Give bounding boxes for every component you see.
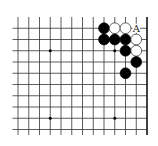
- star-point: [113, 117, 116, 120]
- white-stone: [131, 34, 142, 45]
- black-stone: [120, 45, 131, 56]
- black-stone: [131, 57, 142, 68]
- white-stone: [109, 23, 120, 34]
- black-stone: [99, 34, 110, 45]
- white-stone: [120, 23, 131, 34]
- go-board-diagram: A: [0, 0, 158, 146]
- star-point: [49, 117, 52, 120]
- star-point: [113, 49, 116, 52]
- black-stone: [109, 34, 120, 45]
- point-labels: A: [132, 23, 141, 34]
- white-stone: [131, 45, 142, 56]
- point-label-a: A: [132, 23, 141, 34]
- black-stone: [120, 34, 131, 45]
- star-point: [49, 49, 52, 52]
- black-stone: [120, 68, 131, 79]
- go-board-canvas: A: [0, 0, 158, 146]
- black-stone: [99, 23, 110, 34]
